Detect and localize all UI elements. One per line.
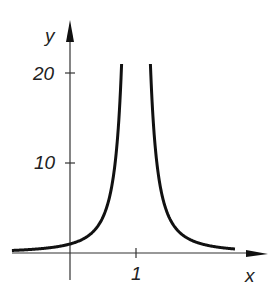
curve-left-branch <box>12 64 122 250</box>
x-axis-label: x <box>245 266 255 285</box>
x-axis-arrow-icon <box>246 250 268 257</box>
y-tick-label-20: 20 <box>33 64 54 83</box>
y-axis-label: y <box>45 26 55 45</box>
y-axis-arrow-icon <box>66 20 74 42</box>
curve-right-branch <box>150 64 235 249</box>
x-tick-label-1: 1 <box>131 264 142 283</box>
y-tick-label-10: 10 <box>34 153 55 172</box>
